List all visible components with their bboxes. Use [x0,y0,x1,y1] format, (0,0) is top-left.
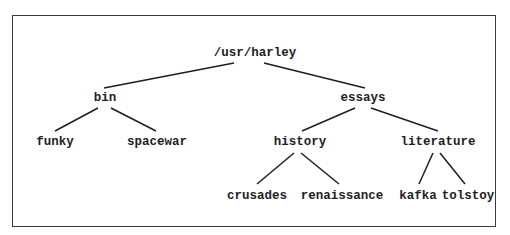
edge-history-renaissance [301,153,339,184]
edge-root-bin [104,63,234,88]
node-essays: essays [340,91,385,105]
node-crusades: crusades [227,189,287,203]
edge-literature-tolstoy [440,153,465,184]
edge-literature-kafka [419,153,433,184]
node-tolstoy: tolstoy [442,189,495,203]
node-kafka: kafka [399,189,437,203]
node-funky: funky [36,135,74,149]
edge-essays-literature [371,108,438,131]
node-spacewar: spacewar [127,135,187,149]
edge-root-essays [264,63,365,88]
node-renaissance: renaissance [301,189,384,203]
edge-bin-funky [55,108,98,131]
edge-bin-spacewar [111,108,156,131]
node-literature: literature [400,135,475,149]
directory-tree-diagram: /usr/harley bin essays funky spacewar hi… [0,0,510,235]
edge-history-crusades [257,153,294,184]
edge-essays-history [302,108,355,131]
node-history: history [274,135,327,149]
node-bin: bin [94,91,117,105]
node-root: /usr/harley [214,46,297,60]
